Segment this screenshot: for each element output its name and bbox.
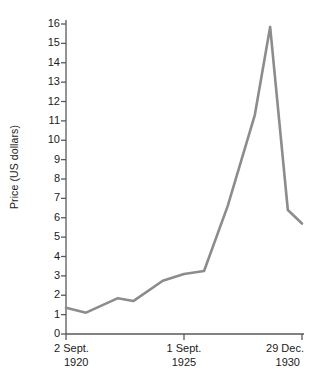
x-tick-label-group: 1 Sept.1925 [144,342,224,369]
x-tick-year: 1930 [244,356,304,370]
x-tick-date: 29 Dec. [244,342,304,356]
x-tick-date: 2 Sept. [54,342,89,356]
series-line-price [66,27,302,313]
data-series-line [66,27,302,313]
x-tick-year: 1925 [144,356,224,370]
x-tick-date: 1 Sept. [144,342,224,356]
x-tick-label-group: 29 Dec.1930 [244,342,304,369]
chart-tick-marks [61,24,302,340]
price-line-chart: Price (US dollars) 161514131211109876543… [0,0,331,384]
x-tick-year: 1920 [54,356,89,370]
plot-area [0,0,331,384]
x-tick-label-group: 2 Sept.1920 [54,342,89,369]
chart-axes [66,20,304,334]
